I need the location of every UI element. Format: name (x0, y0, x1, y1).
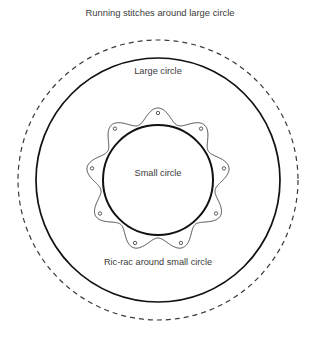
stitch-dot (222, 167, 225, 170)
sewing-pattern-diagram: Running stitches around large circle Lar… (0, 0, 317, 343)
ric-rac-label: Ric-rac around small circle (104, 257, 212, 267)
stitch-dot (199, 127, 202, 130)
stitch-dot (113, 127, 116, 130)
stitch-dot (156, 111, 159, 114)
stitch-dot (98, 212, 101, 215)
stitch-dot (133, 241, 136, 244)
diagram-title: Running stitches around large circle (85, 7, 234, 18)
small-circle-outline (103, 125, 213, 235)
stitch-dot (214, 212, 217, 215)
stitch-dot (90, 167, 93, 170)
small-circle-label: Small circle (135, 168, 182, 178)
large-circle-label: Large circle (134, 66, 182, 76)
running-stitch-dashed-circle (18, 40, 298, 320)
stitch-dot (179, 241, 182, 244)
diagram-page: Running stitches around large circle Lar… (0, 0, 317, 343)
